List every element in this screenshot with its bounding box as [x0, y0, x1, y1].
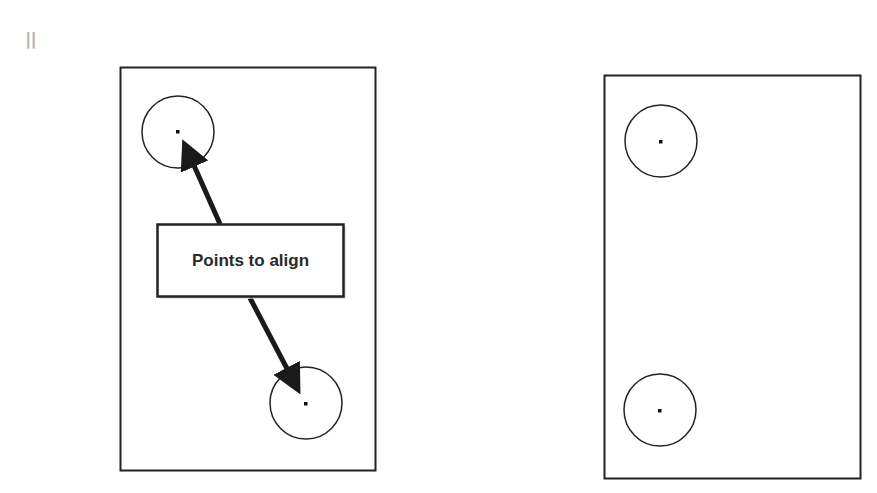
right-bottom-point — [658, 409, 662, 413]
points-to-align-label: Points to align — [157, 224, 344, 297]
right-panel — [605, 76, 861, 479]
right-top-point — [659, 140, 663, 144]
left-bottom-point — [304, 402, 308, 406]
arrow-to-top-point — [188, 152, 220, 224]
diagram-canvas — [0, 0, 877, 493]
arrow-to-bottom-point — [250, 298, 294, 382]
left-top-point — [176, 130, 180, 134]
